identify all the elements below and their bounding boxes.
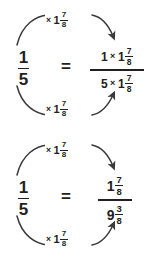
- mixed-whole: 1: [53, 15, 59, 26]
- mixed-whole: 1: [53, 234, 59, 245]
- top-arrow-multiplier-1: 1 7 8: [53, 11, 68, 29]
- top-arrow-label-2: × 1 7 8: [45, 141, 69, 159]
- bottom-arrow-label-1: × 1 7 8: [45, 100, 69, 118]
- mixed-denominator: 8: [62, 240, 66, 248]
- bottom-arrow-label-2: × 1 7 8: [45, 230, 69, 248]
- right-fraction-1: 1 × 1 7 8 5 × 1 7: [90, 47, 144, 93]
- arrow-top-right-segment-2: [92, 145, 113, 166]
- mixed-whole: 9: [107, 208, 115, 222]
- left-fraction-2: 1 5: [18, 179, 29, 218]
- mixed-numerator: 7: [62, 11, 66, 19]
- left-fraction-1: 1 5: [18, 49, 29, 88]
- main-fraction-bar-1: [90, 69, 144, 71]
- numerator-factor-1: 1: [101, 51, 108, 63]
- left-fraction-numerator-2: 1: [19, 179, 28, 196]
- mixed-fraction: 7 8: [60, 100, 68, 118]
- denominator-factor-1: 5: [101, 78, 108, 90]
- right-fraction-2: 1 7 8 9 3 8: [98, 175, 132, 225]
- multiply-icon: ×: [46, 146, 51, 155]
- arrow-bottom-left-segment-2: [17, 216, 48, 245]
- mixed-fraction: 7 8: [125, 47, 133, 66]
- mixed-denominator: 8: [116, 216, 121, 226]
- multiply-icon: ×: [46, 235, 51, 244]
- arrow-bottom-right-segment-2: [92, 225, 113, 245]
- arrow-top-right-segment-1: [92, 15, 113, 36]
- equals-sign-2: =: [61, 188, 71, 205]
- mixed-numerator: 7: [116, 175, 121, 185]
- mixed-fraction: 7 8: [115, 175, 123, 196]
- equals-sign-1: =: [61, 58, 71, 75]
- top-arrow-label-1: × 1 7 8: [45, 11, 69, 29]
- denominator-mixed-number-1: 1 7 8: [118, 74, 133, 93]
- top-arrow-multiplier-2: 1 7 8: [53, 141, 68, 159]
- multiply-icon: ×: [46, 16, 51, 25]
- right-fraction-numerator-1: 1 × 1 7 8: [100, 47, 134, 66]
- left-fraction-denominator-1: 5: [19, 71, 28, 88]
- arrow-top-left-segment-1: [17, 15, 48, 45]
- mixed-whole: 1: [53, 145, 59, 156]
- equivalent-fraction-diagram-2: 1 5 = 1 7 8 9: [0, 130, 149, 261]
- arrow-top-left-segment-2: [17, 145, 48, 175]
- equivalent-fraction-diagram-1: 1 5 = 1 × 1 7 8 5: [0, 0, 149, 131]
- mixed-denominator: 8: [62, 151, 66, 159]
- arrow-bottom-left-segment-1: [17, 86, 48, 115]
- main-fraction-bar-2: [98, 199, 132, 201]
- mixed-whole: 1: [118, 51, 125, 63]
- right-fraction-denominator-2: 9 3 8: [106, 204, 124, 225]
- mixed-numerator: 7: [62, 230, 66, 238]
- right-fraction-denominator-1: 5 × 1 7 8: [100, 74, 134, 93]
- mixed-denominator: 8: [62, 21, 66, 29]
- mixed-whole: 1: [118, 78, 125, 90]
- mixed-denominator: 8: [116, 187, 121, 197]
- mixed-fraction: 3 8: [115, 204, 123, 225]
- right-fraction-numerator-2: 1 7 8: [106, 175, 124, 196]
- multiply-icon: ×: [110, 79, 115, 88]
- mixed-denominator: 8: [127, 58, 132, 67]
- multiply-icon: ×: [46, 105, 51, 114]
- mixed-numerator: 7: [127, 47, 132, 56]
- mixed-fraction: 7 8: [125, 74, 133, 93]
- mixed-denominator: 8: [127, 85, 132, 94]
- denominator-mixed-number-2: 9 3 8: [107, 204, 123, 225]
- multiply-icon: ×: [110, 52, 115, 61]
- mixed-fraction: 7 8: [60, 11, 68, 29]
- mixed-denominator: 8: [62, 110, 66, 118]
- mixed-numerator: 3: [116, 204, 121, 214]
- left-fraction-numerator-1: 1: [19, 49, 28, 66]
- numerator-mixed-number-2: 1 7 8: [107, 175, 123, 196]
- mixed-numerator: 7: [127, 74, 132, 83]
- mixed-fraction: 7 8: [60, 230, 68, 248]
- mixed-fraction: 7 8: [60, 141, 68, 159]
- numerator-mixed-number-1: 1 7 8: [118, 47, 133, 66]
- worksheet-page: 1 5 = 1 × 1 7 8 5: [0, 0, 149, 261]
- mixed-whole: 1: [107, 179, 115, 193]
- left-fraction-denominator-2: 5: [19, 201, 28, 218]
- mixed-numerator: 7: [62, 141, 66, 149]
- arrow-bottom-right-segment-1: [92, 95, 113, 115]
- bottom-arrow-multiplier-2: 1 7 8: [53, 230, 68, 248]
- mixed-numerator: 7: [62, 100, 66, 108]
- mixed-whole: 1: [53, 104, 59, 115]
- bottom-arrow-multiplier-1: 1 7 8: [53, 100, 68, 118]
